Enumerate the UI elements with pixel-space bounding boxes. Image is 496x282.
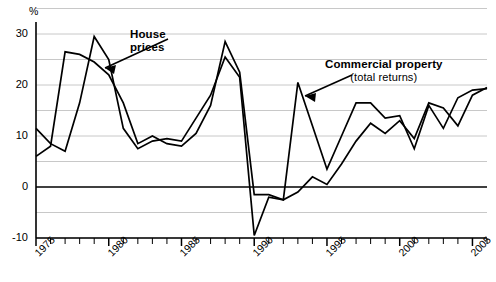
- y-axis-tick-label: 0: [2, 180, 28, 192]
- y-axis-unit-label: %: [29, 5, 38, 17]
- annotation-commercial-property-line2: (total returns): [325, 71, 443, 84]
- chart-plot-area: [0, 0, 496, 282]
- annotation-house-prices-line2: prices: [130, 41, 166, 54]
- gridlines-group: [36, 9, 487, 239]
- annotation-commercial-property: Commercial property (total returns): [325, 58, 443, 84]
- annotation-commercial-property-line1: Commercial property: [325, 58, 443, 70]
- chart-container: % House prices Commercial property (tota…: [0, 0, 496, 282]
- annotation-house-prices-line1: House: [130, 28, 166, 40]
- y-axis-tick-label: 30: [2, 27, 28, 39]
- y-axis-tick-label: -10: [2, 231, 28, 243]
- annotation-house-prices: House prices: [130, 28, 166, 54]
- y-axis-tick-label: 20: [2, 78, 28, 90]
- y-axis-tick-label: 10: [2, 129, 28, 141]
